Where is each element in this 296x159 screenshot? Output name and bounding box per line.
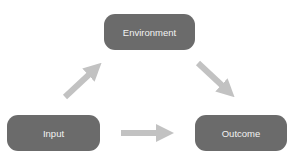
arrow-input-to-environment bbox=[65, 69, 95, 97]
node-label: Environment bbox=[123, 27, 176, 38]
node-label: Input bbox=[43, 128, 64, 139]
node-environment: Environment bbox=[104, 14, 195, 50]
node-input: Input bbox=[7, 115, 100, 151]
node-label: Outcome bbox=[222, 128, 261, 139]
arrow-environment-to-outcome bbox=[198, 63, 228, 91]
node-outcome: Outcome bbox=[195, 115, 287, 151]
